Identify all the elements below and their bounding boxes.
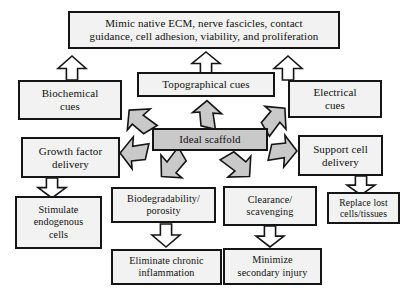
node-label-support-cell-delivery: Support cell delivery <box>310 143 371 169</box>
node-label-clearance-scavenging: Clearance/ scavenging <box>244 194 297 218</box>
node-label-stimulate-endogenous-cells: Stimulate endogenous cells <box>31 204 87 240</box>
arrow-topographical-to-mimic <box>192 52 220 74</box>
node-growth-factor-delivery: Growth factor delivery <box>21 137 120 178</box>
node-minimize-secondary-injury: Minimize secondary injury <box>223 248 322 285</box>
node-label-electrical-cues: Electrical cues <box>310 86 359 112</box>
node-label-topographical-cues: Topographical cues <box>159 78 252 91</box>
node-clearance-scavenging: Clearance/ scavenging <box>223 186 317 226</box>
node-label-eliminate-chronic-inflammation: Eliminate chronic inflammation <box>126 255 206 279</box>
node-label-biodegradability-porosity: Biodegradability/ porosity <box>124 193 203 217</box>
node-electrical-cues: Electrical cues <box>288 80 382 118</box>
arrow-electrical-to-mimic <box>274 56 302 80</box>
node-label-minimize-secondary-injury: Minimize secondary injury <box>235 254 311 278</box>
arrow-clearance-to-minimize <box>256 226 284 247</box>
node-mimic-ecm: Mimic native ECM, nerve fascicles, conta… <box>68 11 340 49</box>
arrow-growth-to-stimulate <box>38 178 66 198</box>
node-label-biochemical-cues: Biochemical cues <box>39 87 102 113</box>
node-label-ideal-scaffold: Ideal scaffold <box>176 133 243 146</box>
node-biochemical-cues: Biochemical cues <box>18 80 122 120</box>
arrow-biochemical-to-mimic <box>58 56 86 80</box>
node-replace-lost-cells-tissues: Replace lost cells/tissues <box>327 192 400 224</box>
node-topographical-cues: Topographical cues <box>137 72 275 97</box>
node-ideal-scaffold: Ideal scaffold <box>152 128 268 151</box>
arrow-biodegradability-to-eliminate <box>152 224 180 247</box>
node-support-cell-delivery: Support cell delivery <box>298 135 383 176</box>
arrow-scaffold-to-growth <box>120 137 150 170</box>
flowchart-canvas: Mimic native ECM, nerve fascicles, conta… <box>0 0 410 298</box>
arrow-scaffold-to-support <box>268 135 298 168</box>
node-stimulate-endogenous-cells: Stimulate endogenous cells <box>15 196 102 249</box>
node-biodegradability-porosity: Biodegradability/ porosity <box>111 187 216 223</box>
node-eliminate-chronic-inflammation: Eliminate chronic inflammation <box>111 249 222 285</box>
node-label-replace-lost-cells-tissues: Replace lost cells/tissues <box>336 197 390 220</box>
arrow-scaffold-to-topographical <box>192 100 222 130</box>
node-label-mimic-ecm: Mimic native ECM, nerve fascicles, conta… <box>87 17 322 43</box>
node-label-growth-factor-delivery: Growth factor delivery <box>36 145 105 171</box>
